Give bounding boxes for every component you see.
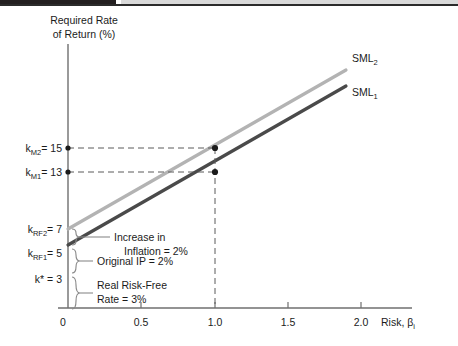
y-value-label-km2-eq: = 15 <box>41 142 62 154</box>
brace-original-ip <box>72 249 80 273</box>
sml1-line <box>68 86 346 245</box>
axis-point-km1 <box>65 169 70 174</box>
sml1-label-base: SML <box>352 86 374 98</box>
x-tick-label-1-5: 1.5 <box>281 316 296 328</box>
brace-real-risk-free <box>72 277 80 309</box>
x-tick-label-2-0: 2.0 <box>354 316 369 328</box>
x-axis-title-base: Risk, β <box>381 316 413 328</box>
annotation-original-ip: Original IP = 2% <box>97 255 173 267</box>
sml1-label: SML1 <box>352 86 378 101</box>
marker-point-km2 <box>212 145 218 151</box>
y-value-label-km1-subscript: M1 <box>31 172 41 181</box>
sml1-label-subscript: 1 <box>374 92 378 101</box>
y-value-label-krf1-eq: = 5 <box>47 247 62 259</box>
y-value-label-km1-eq: = 13 <box>41 166 62 178</box>
x-tick-label-1-0: 1.0 <box>208 316 223 328</box>
sml2-line <box>68 70 346 229</box>
sml2-label-base: SML <box>352 52 374 64</box>
y-value-label-krf2: kRF2= 7 <box>28 223 62 238</box>
y-value-label-krf2-subscript: RF2 <box>33 229 47 238</box>
annotation-increase-inflation-line1: Increase in <box>114 231 166 243</box>
y-value-label-km2-subscript: M2 <box>31 148 41 157</box>
y-value-label-krf1-subscript: RF1 <box>33 253 47 262</box>
y-axis-title-line1: Required Rate <box>50 14 118 26</box>
annotation-real-risk-free-line2: Rate = 3% <box>97 293 146 305</box>
axis-point-km2 <box>65 145 70 150</box>
sml2-label-subscript: 2 <box>374 58 378 67</box>
y-axis-title-line2: of Return (%) <box>53 28 115 40</box>
y-value-label-krf1: kRF1= 5 <box>28 247 62 262</box>
x-tick-label-origin: 0 <box>60 316 66 328</box>
sml2-label: SML2 <box>352 52 378 67</box>
x-axis-title: Risk, βi <box>381 316 415 331</box>
y-value-label-km2: kM2= 15 <box>26 142 63 157</box>
y-value-label-kstar: k* = 3 <box>35 273 62 285</box>
y-value-label-krf2-eq: = 7 <box>47 223 62 235</box>
figure-root: Required Rate of Return (%) 0 0.5 1.0 1.… <box>0 0 458 346</box>
marker-point-km1 <box>212 169 218 175</box>
annotation-real-risk-free-line1: Real Risk-Free <box>97 279 167 291</box>
x-axis-title-subscript: i <box>413 322 415 331</box>
y-value-label-km1: kM1= 13 <box>26 166 63 181</box>
x-tick-label-0-5: 0.5 <box>134 316 149 328</box>
sml-chart: Required Rate of Return (%) 0 0.5 1.0 1.… <box>0 0 458 346</box>
